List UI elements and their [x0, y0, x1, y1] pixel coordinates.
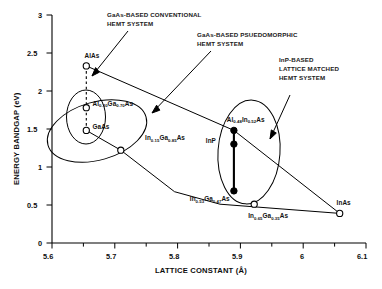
y-tick-label-2: 2: [38, 87, 42, 96]
x-axis-title: LATTICE CONSTANT (Å): [155, 266, 247, 275]
point-gaas: [83, 127, 89, 133]
point-label-ingaas65: In0.65Ga0.35As: [248, 212, 288, 219]
point-alinas: [231, 127, 237, 133]
annotation-pseudomorphic-line1: GaAs-BASED PSUEDOMORPHIC: [197, 31, 298, 40]
annotation-pseudomorphic-line2: HEMT SYSTEM: [197, 40, 243, 49]
y-tick-label-1.5: 1.5: [27, 125, 37, 134]
point-label-inas: InAs: [337, 199, 351, 206]
x-axis-ticks: [52, 243, 366, 249]
y-tick-label-0.5: 0.5: [27, 201, 37, 210]
y-tick-label-3: 3: [38, 11, 42, 20]
region-lattice-matched-ellipse: [214, 98, 283, 206]
point-inp: [231, 141, 237, 147]
point-label-alinas: Al0.48In0.52As: [227, 116, 265, 123]
point-inas: [337, 210, 343, 216]
point-algaas: [83, 105, 89, 111]
y-axis-ticks: [47, 15, 53, 243]
annotation-arrows: [92, 31, 290, 139]
point-label-gaas: GaAs: [93, 123, 110, 130]
point-label-inp: InP: [206, 137, 216, 144]
x-tick-label-5.8: 5.8: [169, 252, 179, 261]
point-ingaas15: [118, 147, 124, 153]
y-axis-title: ENERGY BANDGAP (eV): [12, 92, 21, 185]
point-ingaas53: [231, 188, 237, 194]
annotation-conventional-line2: HEMT SYSTEM: [107, 20, 153, 29]
point-ingaas65: [251, 201, 257, 207]
point-label-algaas: Al0.30Ga0.70As: [93, 100, 134, 107]
y-tick-label-2.5: 2.5: [27, 49, 37, 58]
point-alas: [83, 63, 89, 69]
annotation-conventional-line1: GaAs-BASED CONVENTIONAL: [107, 11, 202, 20]
annotation-lattice-matched-line1: InP-BASED: [279, 56, 314, 65]
x-tick-label-5.9: 5.9: [232, 252, 242, 261]
x-tick-label-5.6: 5.6: [43, 252, 53, 261]
x-tick-label-6.1: 6.1: [357, 252, 367, 261]
y-tick-label-1: 1: [38, 163, 42, 172]
point-label-ingaas53: In0.53Ga0.47As: [190, 195, 230, 202]
bandgap-vs-lattice-constant-chart: [0, 0, 382, 289]
point-label-alas: AlAs: [85, 52, 100, 59]
annotation-lattice-matched-line2: LATTICE MATCHED: [279, 65, 339, 74]
x-tick-label-5.7: 5.7: [106, 252, 116, 261]
x-tick-label-6: 6: [300, 252, 304, 261]
annotation-lattice-matched-line3: HEMT SYSTEM: [279, 74, 325, 83]
point-label-ingaas15: In0.15Ga0.85As: [145, 134, 185, 141]
